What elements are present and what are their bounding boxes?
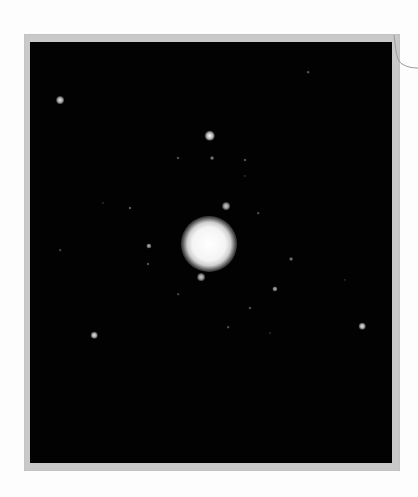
diffraction-spot — [269, 332, 271, 334]
diffraction-spot — [128, 206, 131, 209]
diffraction-plate — [30, 42, 392, 463]
diffraction-spot — [197, 273, 205, 281]
diffraction-spot — [146, 262, 149, 265]
central-spot — [181, 216, 237, 272]
diffraction-spot — [307, 71, 310, 74]
diffraction-spot — [59, 249, 62, 252]
diffraction-spot — [177, 293, 180, 296]
diffraction-spot — [289, 257, 293, 261]
diffraction-spot — [56, 96, 64, 104]
diffraction-spot — [227, 326, 230, 329]
photo-paper: Photographic print of a diffraction-like… — [0, 0, 418, 497]
diffraction-spot — [102, 202, 104, 204]
diffraction-spot — [146, 243, 151, 248]
diffraction-spot — [222, 202, 230, 210]
diffraction-spot — [272, 286, 277, 291]
diffraction-spot — [244, 175, 246, 177]
diffraction-spot — [257, 212, 260, 215]
diffraction-spot — [344, 279, 346, 281]
diffraction-spot — [205, 131, 215, 141]
diffraction-spot — [248, 306, 251, 309]
diffraction-spot — [243, 158, 246, 161]
diffraction-spot — [359, 323, 366, 330]
diffraction-spot — [91, 332, 98, 339]
diffraction-spot — [210, 156, 214, 160]
image-description: Photographic print of a diffraction-like… — [0, 0, 1, 1]
diffraction-spot — [176, 156, 179, 159]
